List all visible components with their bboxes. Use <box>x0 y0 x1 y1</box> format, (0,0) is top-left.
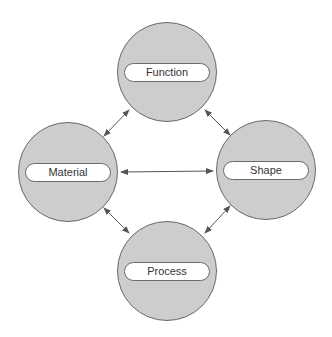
node-shape: Shape <box>216 120 316 220</box>
node-function: Function <box>117 22 217 122</box>
node-label-shape: Shape <box>223 161 309 180</box>
node-label-process: Process <box>124 262 210 281</box>
edge-shape-process <box>205 206 230 233</box>
edge-function-material <box>104 110 129 136</box>
node-label-material: Material <box>25 163 111 182</box>
edge-material-shape <box>121 171 213 172</box>
node-material: Material <box>18 122 118 222</box>
edge-material-process <box>104 208 129 233</box>
node-process: Process <box>117 221 217 321</box>
edge-function-shape <box>205 110 230 135</box>
node-label-function: Function <box>124 63 210 82</box>
